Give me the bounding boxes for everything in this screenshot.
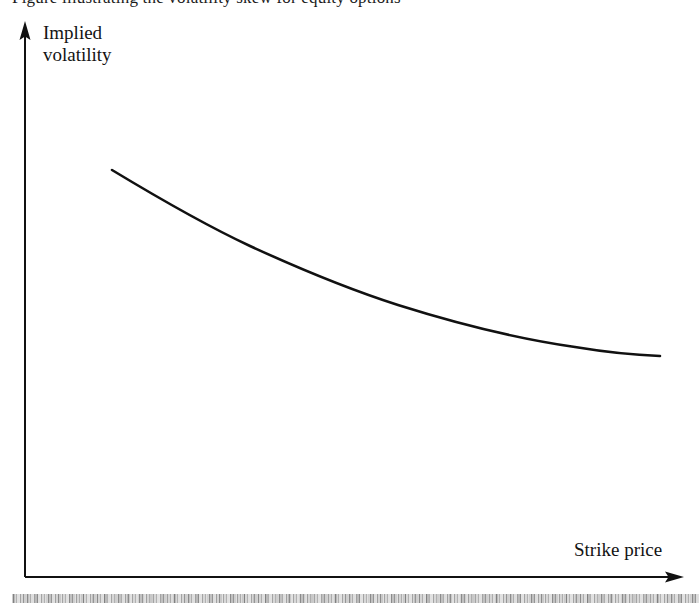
volatility-skew-plot — [0, 0, 699, 605]
volatility-skew-curve — [112, 170, 660, 356]
y-axis-label-line2: volatility — [43, 44, 112, 66]
x-axis-label: Strike price — [574, 539, 662, 561]
y-axis-label: Implied volatility — [43, 22, 112, 66]
figure-root: Figure illustrating the volatility skew … — [0, 0, 699, 605]
scan-artifact-band — [12, 594, 699, 603]
y-axis-label-line1: Implied — [43, 22, 112, 44]
